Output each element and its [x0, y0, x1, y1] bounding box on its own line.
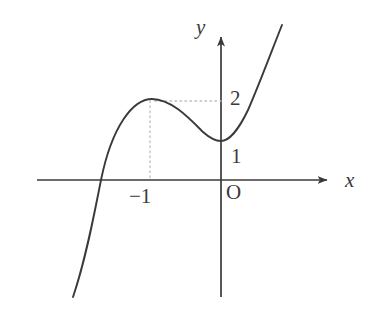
y-axis-label: y	[196, 17, 205, 38]
plot-canvas	[0, 0, 384, 318]
graph-figure: y x 2 1 −1 O	[0, 0, 384, 318]
origin-label: O	[226, 182, 241, 203]
y-tick-label-1: 1	[231, 146, 242, 167]
y-tick-label-2: 2	[230, 88, 241, 109]
cubic-curve	[73, 25, 282, 297]
x-tick-label-minus-1: −1	[129, 186, 151, 207]
x-axis-label: x	[345, 170, 354, 191]
